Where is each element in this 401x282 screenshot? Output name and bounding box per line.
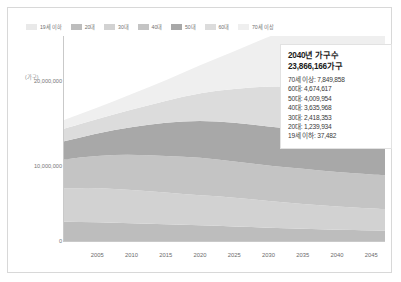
x-axis: 200520102015202020252030203520402045 [63, 252, 385, 264]
y-tick-20m: 20,000,000 [34, 78, 62, 84]
info-box-rows: 70세 이상: 7,849,85860대: 4,674,61750대: 4,00… [288, 75, 384, 141]
legend-swatch-icon [238, 24, 249, 30]
legend-item-3[interactable]: 40대 [138, 24, 162, 30]
info-row-0: 70세 이상: 7,849,858 [288, 75, 384, 84]
legend-swatch-icon [171, 24, 182, 30]
info-box-title: 2040년 가구수 [288, 51, 384, 62]
x-tick-2045: 2045 [365, 252, 378, 258]
legend-swatch-icon [138, 24, 149, 30]
info-row-2: 50대: 4,009,954 [288, 94, 384, 103]
info-row-3: 40대: 3,635,968 [288, 103, 384, 112]
info-row-1: 60대: 4,674,617 [288, 84, 384, 93]
legend-swatch-icon [71, 24, 82, 30]
x-tick-2015: 2015 [159, 252, 172, 258]
y-axis-line [63, 36, 64, 242]
legend-label: 20대 [85, 24, 95, 30]
legend-item-6[interactable]: 70세 이상 [238, 24, 274, 30]
chart-legend: 19세 이하20대30대40대50대60대70세 이상 [26, 22, 274, 32]
info-row-6: 19세 이하: 37,482 [288, 131, 384, 140]
x-axis-line [63, 241, 385, 242]
x-tick-2030: 2030 [262, 252, 275, 258]
x-tick-2040: 2040 [331, 252, 344, 258]
x-tick-2025: 2025 [228, 252, 241, 258]
legend-label: 30대 [118, 24, 128, 30]
x-tick-2020: 2020 [194, 252, 207, 258]
legend-label: 60대 [219, 24, 229, 30]
legend-item-2[interactable]: 30대 [104, 24, 128, 30]
legend-item-1[interactable]: 20대 [71, 24, 95, 30]
legend-swatch-icon [104, 24, 115, 30]
legend-label: 70세 이상 [252, 24, 274, 30]
legend-swatch-icon [205, 24, 216, 30]
x-tick-2005: 2005 [91, 252, 104, 258]
chart-frame: 19세 이하20대30대40대50대60대70세 이상 (가구) 20,000,… [7, 7, 392, 273]
legend-item-5[interactable]: 60대 [205, 24, 229, 30]
info-row-5: 20대: 1,239,934 [288, 122, 384, 131]
y-axis: (가구) 20,000,000 10,000,000 0 [8, 8, 62, 274]
info-box: 2040년 가구수 23,866,166가구 70세 이상: 7,849,858… [280, 44, 392, 149]
legend-label: 50대 [185, 24, 195, 30]
legend-label: 40대 [152, 24, 162, 30]
x-tick-2010: 2010 [125, 252, 138, 258]
info-box-total: 23,866,166가구 [288, 62, 384, 73]
x-tick-2035: 2035 [296, 252, 309, 258]
y-tick-0: 0 [59, 238, 62, 244]
info-row-4: 30대: 2,418,353 [288, 113, 384, 122]
legend-item-4[interactable]: 50대 [171, 24, 195, 30]
y-tick-10m: 10,000,000 [34, 163, 62, 169]
